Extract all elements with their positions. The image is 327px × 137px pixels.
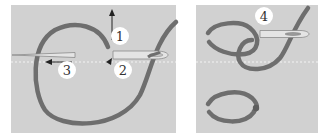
needle-step4-icon — [260, 31, 309, 38]
finished-knot-upper — [208, 92, 257, 111]
step-badge-2: 2 — [114, 61, 132, 79]
step-number-4: 4 — [260, 9, 268, 24]
stitch-illustration: 1 2 3 4 — [0, 0, 327, 137]
thread-loop-tail — [239, 8, 309, 69]
arrow-left-small-icon — [106, 58, 112, 65]
finished-knot-lower — [209, 112, 254, 121]
knot-icon — [253, 105, 259, 111]
thread-left — [36, 22, 176, 124]
step-number-1: 1 — [116, 29, 124, 44]
step-badge-4: 4 — [255, 7, 273, 25]
step-badge-1: 1 — [111, 27, 129, 45]
step-number-3: 3 — [63, 63, 71, 78]
step-number-2: 2 — [119, 63, 127, 78]
step-badge-3: 3 — [58, 61, 76, 79]
needle-left-icon — [12, 53, 75, 58]
